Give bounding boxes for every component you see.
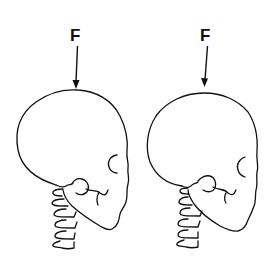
skull-outline-right [147, 93, 257, 231]
maxilla-line-left [86, 189, 108, 195]
maxilla-line-right [213, 187, 236, 195]
skull-outline-left [17, 90, 129, 230]
force-arrow-right [205, 46, 208, 80]
mandible-notch-right [225, 193, 227, 203]
left-panel [17, 46, 129, 249]
cervical-spine-left [52, 189, 77, 249]
eye-socket-right [237, 157, 245, 177]
arrowhead-left-icon [73, 80, 80, 89]
skull-base-left [56, 183, 73, 187]
diagram-canvas [0, 0, 278, 262]
zygomatic-left [72, 179, 89, 195]
force-arrow-left [76, 46, 78, 82]
arrowhead-right-icon [201, 78, 208, 87]
right-panel [147, 46, 257, 248]
eye-socket-left [108, 155, 117, 173]
skull-base-right [182, 182, 198, 188]
skull-force-diagram: F F [0, 0, 278, 262]
mandible-notch-left [97, 192, 99, 205]
zygomatic-right [198, 176, 216, 192]
